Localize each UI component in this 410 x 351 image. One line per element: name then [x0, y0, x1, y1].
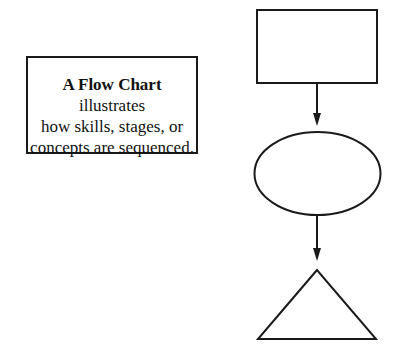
arrowhead-1 [313, 113, 321, 126]
flow-ellipse [255, 132, 381, 215]
arrowhead-2 [313, 248, 321, 261]
flow-chart-diagram [0, 0, 410, 351]
flow-triangle [258, 270, 376, 339]
flow-rectangle [257, 10, 377, 83]
